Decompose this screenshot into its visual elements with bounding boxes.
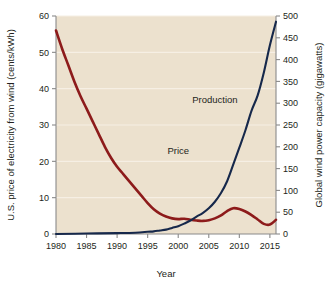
y-tick-label: 60	[39, 11, 49, 21]
x-axis-title: Year	[156, 268, 175, 279]
y2-axis-title: Global wind power capacity (gigawatts)	[313, 43, 324, 208]
y2-tick-label: 150	[283, 164, 298, 174]
y-tick-label: 0	[44, 229, 49, 239]
x-tick-label: 1990	[107, 241, 127, 251]
y2-tick-label: 300	[283, 98, 298, 108]
x-tick-label: 2015	[260, 241, 280, 251]
y-tick-label: 10	[39, 193, 49, 203]
y-tick-label: 20	[39, 157, 49, 167]
x-tick-label: 2010	[229, 241, 249, 251]
wind-energy-chart: 050100150200250300350400450500 010203040…	[0, 0, 335, 284]
y2-tick-label: 250	[283, 120, 298, 130]
chart-canvas: 050100150200250300350400450500 010203040…	[0, 0, 335, 284]
y2-tick-label: 100	[283, 186, 298, 196]
y2-tick-label: 500	[283, 11, 298, 21]
x-tick-label: 2000	[168, 241, 188, 251]
x-tick-label: 1985	[77, 241, 97, 251]
y-tick-label: 50	[39, 48, 49, 58]
x-tick-label: 1980	[46, 241, 66, 251]
y2-tick-label: 350	[283, 77, 298, 87]
y2-tick-label: 50	[283, 207, 293, 217]
y2-tick-label: 0	[283, 229, 288, 239]
series-label-price: Price	[167, 145, 189, 156]
y-tick-label: 30	[39, 120, 49, 130]
y-tick-label: 40	[39, 84, 49, 94]
y2-tick-label: 450	[283, 33, 298, 43]
x-tick-label: 1995	[138, 241, 158, 251]
y2-tick-label: 400	[283, 55, 298, 65]
x-tick-label: 2005	[199, 241, 219, 251]
y2-tick-label: 200	[283, 142, 298, 152]
series-label-production: Production	[192, 94, 237, 105]
y-axis-title: U.S. price of electricity from wind (cen…	[5, 29, 16, 221]
